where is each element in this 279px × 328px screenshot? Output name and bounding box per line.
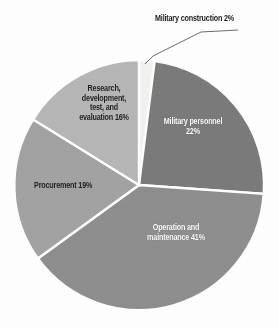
leader-line-military-construction: [145, 30, 238, 64]
slice-label-procurement: Procurement 19%: [34, 181, 92, 191]
slice-label-military-personnel-line2: 22%: [155, 127, 231, 137]
slice-label-operation-maintenance: Operation and maintenance 41%: [130, 223, 222, 242]
slice-label-operation-maintenance-line2: maintenance 41%: [130, 233, 222, 243]
slice-label-rdte-line3: test, and: [67, 103, 141, 113]
slice-label-military-construction-text: Military construction 2%: [155, 14, 234, 24]
slice-label-rdte-line1: Research,: [67, 84, 141, 94]
slice-label-operation-maintenance-line1: Operation and: [130, 223, 222, 233]
slice-label-military-construction: Military construction 2%: [155, 14, 234, 24]
slice-label-military-personnel: Military personnel 22%: [155, 117, 231, 136]
slice-label-military-personnel-line1: Military personnel: [155, 117, 231, 127]
slice-label-rdte-line4: evaluation 16%: [67, 113, 141, 123]
slice-label-rdte-line2: development,: [67, 94, 141, 104]
slice-label-rdte: Research, development, test, and evaluat…: [67, 84, 141, 123]
slice-label-procurement-text: Procurement 19%: [34, 181, 92, 191]
pie-chart: Military construction 2% Military person…: [0, 0, 279, 328]
pie-chart-svg: [0, 0, 279, 328]
